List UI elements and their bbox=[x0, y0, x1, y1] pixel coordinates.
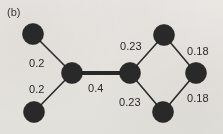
edge-weight-label: 0.4 bbox=[88, 82, 104, 94]
graph-node bbox=[186, 63, 207, 84]
edge-layer bbox=[33, 34, 196, 112]
graph-node bbox=[154, 25, 175, 46]
graph-node bbox=[62, 63, 83, 84]
panel-label: (b) bbox=[7, 6, 20, 19]
edge-weight-label: 0.23 bbox=[120, 40, 142, 52]
graph-node bbox=[24, 102, 45, 123]
graph-node bbox=[120, 63, 141, 84]
edge-weight-label: 0.23 bbox=[119, 96, 141, 108]
edge-weight-label: 0.18 bbox=[187, 92, 209, 104]
graph-node bbox=[153, 102, 174, 123]
graph-node bbox=[23, 24, 44, 45]
edge-weight-label: 0.2 bbox=[29, 83, 45, 95]
edge-weight-label: 0.2 bbox=[29, 57, 45, 69]
edge-weight-label: 0.18 bbox=[187, 45, 209, 57]
figure-panel-b: (b) 0.20.20.40.230.230.180.18 bbox=[0, 0, 223, 134]
